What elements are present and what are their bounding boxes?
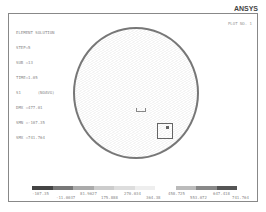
- legend-band: [53, 186, 74, 190]
- legend-labels: -107.35 -11.0037 81.9627 175.888 270.034…: [28, 191, 248, 203]
- legend-band: [196, 186, 217, 190]
- info-line: SMX =741.764: [16, 135, 55, 140]
- disc-model: [73, 27, 199, 159]
- legend-label: 553.072: [190, 195, 207, 200]
- info-line: SUB =13: [16, 60, 55, 65]
- legend-label: 647.418: [213, 191, 230, 196]
- legend-band: [135, 186, 156, 190]
- info-line: TIME=1.05: [16, 75, 55, 80]
- info-line: STEP=5: [16, 45, 55, 50]
- info-line: SMN =-107.35: [16, 120, 55, 125]
- info-line: ELEMENT SOLUTION: [16, 30, 55, 35]
- legend-band: [94, 186, 115, 190]
- legend-label: -107.35: [32, 191, 49, 196]
- legend-label: 175.888: [101, 195, 118, 200]
- legend-label: 364.38: [146, 195, 160, 200]
- ansys-logo: ANSYS: [234, 5, 258, 12]
- solution-info: ELEMENT SOLUTION STEP=5 SUB =13 TIME=1.0…: [16, 20, 55, 145]
- max-marker: [166, 126, 169, 129]
- legend-band: [114, 186, 135, 190]
- contour-legend: [32, 186, 237, 190]
- info-line: DMX =477.01: [16, 105, 55, 110]
- info-line: S1 (NOAVG): [16, 90, 55, 95]
- legend-label: 81.9627: [80, 191, 97, 196]
- legend-band: [176, 186, 197, 190]
- legend-band: [217, 186, 238, 190]
- legend-band: [155, 186, 176, 190]
- center-feature: [136, 108, 146, 112]
- legend-band: [32, 186, 53, 190]
- legend-label: -11.0037: [56, 195, 75, 200]
- legend-label: 270.034: [124, 191, 141, 196]
- square-feature: [157, 123, 173, 139]
- plot-number: PLOT NO. 1: [228, 21, 252, 26]
- legend-band: [73, 186, 94, 190]
- legend-label: 741.764: [232, 195, 249, 200]
- legend-label: 458.725: [168, 191, 185, 196]
